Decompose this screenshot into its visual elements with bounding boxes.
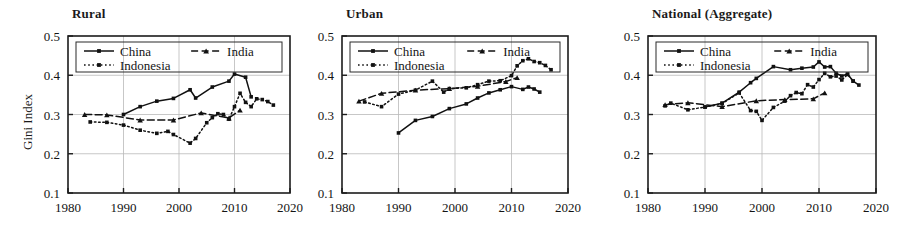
data-point-indonesia (834, 74, 838, 78)
data-point-indonesia (846, 73, 850, 77)
panel-national: National (Aggregate)0.10.20.30.40.519801… (0, 0, 902, 236)
y-tick-label: 0.4 (624, 68, 641, 83)
data-point-indonesia (800, 92, 804, 96)
legend-label-india: India (810, 44, 837, 59)
x-tick-label: 1980 (635, 200, 661, 215)
data-point-indonesia (703, 105, 707, 109)
data-point-indonesia (772, 106, 776, 110)
data-point-china (812, 65, 816, 69)
data-point-indonesia (669, 101, 673, 105)
data-point-indonesia (794, 91, 798, 95)
y-tick-label: 0.1 (624, 186, 640, 201)
data-point-indonesia (749, 109, 753, 113)
data-point-indonesia (760, 119, 764, 123)
data-point-indonesia (840, 78, 844, 82)
x-tick-label: 2020 (863, 200, 889, 215)
data-point-china (800, 66, 804, 70)
data-point-indonesia (829, 75, 833, 79)
y-tick-label: 0.2 (624, 147, 640, 162)
data-point-indonesia (817, 78, 821, 82)
data-point-indonesia (663, 104, 667, 108)
data-point-indonesia (812, 85, 816, 89)
legend-label-china: China (700, 44, 731, 59)
data-point-china (755, 77, 759, 81)
data-point-china (829, 65, 833, 69)
data-point-china (749, 81, 753, 85)
data-point-indonesia (851, 79, 855, 83)
data-point-china (840, 74, 844, 78)
y-tick-label: 0.5 (624, 29, 640, 44)
series-line-indonesia (665, 73, 853, 120)
plot-national: 0.10.20.30.40.519801990200020102020China… (0, 0, 902, 236)
data-point-china (789, 68, 793, 72)
y-tick-label: 0.3 (624, 108, 640, 123)
x-tick-label: 2000 (749, 200, 775, 215)
data-point-indonesia (755, 110, 759, 114)
data-point-indonesia (720, 102, 724, 106)
x-tick-label: 1990 (692, 200, 718, 215)
data-point-china (823, 65, 827, 69)
data-point-china (857, 83, 861, 87)
data-point-china (772, 65, 776, 69)
legend-marker-china (677, 49, 681, 53)
data-point-indonesia (789, 94, 793, 98)
legend-marker-indonesia (677, 63, 681, 67)
x-tick-label: 2010 (806, 200, 832, 215)
data-point-indonesia (783, 99, 787, 103)
gini-index-figure: Gini Index Rural0.10.20.30.40.5198019902… (0, 0, 902, 236)
data-point-indonesia (686, 108, 690, 112)
legend-label-indonesia: Indonesia (700, 58, 751, 73)
data-point-india (822, 90, 827, 95)
data-point-indonesia (806, 83, 810, 87)
data-point-indonesia (737, 91, 741, 95)
data-point-china (817, 60, 821, 64)
